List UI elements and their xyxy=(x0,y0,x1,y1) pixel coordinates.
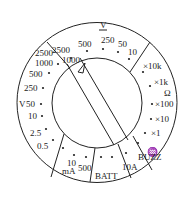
ma-unit: mA xyxy=(62,166,76,176)
dcv-range-2500: 2500 xyxy=(35,48,54,58)
dcv-range-250: 250 xyxy=(24,83,38,93)
buzz-label: BUZZ xyxy=(138,152,162,162)
dcv-range-500: 500 xyxy=(29,69,43,79)
dcv-range-10: 10 xyxy=(28,111,38,121)
selector-pointer[interactable] xyxy=(67,58,128,145)
ohm-range-x10k: ×10k xyxy=(143,61,162,71)
divider-batt-10a xyxy=(118,144,131,178)
acv-range-50: 50 xyxy=(118,39,128,49)
amp-10a-label: 10A xyxy=(122,162,138,172)
acv-unit: V xyxy=(100,20,107,30)
acv-range-500: 500 xyxy=(78,39,92,49)
acv-range-1000: 1000 xyxy=(62,55,81,65)
dcv-range-50: 50 xyxy=(26,99,36,109)
ohm-range-x1k: ×1k xyxy=(154,77,169,87)
dial-knob[interactable] xyxy=(52,58,142,148)
dcv-range-1000: 1000 xyxy=(35,58,54,68)
acv-range-2500: 2500 xyxy=(52,45,71,55)
ohm-range-x1: ×1 xyxy=(151,128,161,138)
acv-range-250: 250 xyxy=(101,35,115,45)
ohm-unit: Ω xyxy=(164,88,171,98)
acv-range-10: 10 xyxy=(128,47,138,57)
dcv-unit: V xyxy=(19,99,26,109)
batt-label: BATT xyxy=(95,171,118,181)
ohm-range-x100: ×100 xyxy=(155,99,174,109)
dcv-range-0-5: 0.5 xyxy=(37,141,49,151)
dcv-range-2-5: 2.5 xyxy=(30,128,42,138)
multimeter-dial: V 2500 1000 500 250 50 10 2500 1000 500 … xyxy=(0,0,194,197)
ohm-range-x10: ×10 xyxy=(155,114,170,124)
ma-range-500: 500 xyxy=(78,163,92,173)
